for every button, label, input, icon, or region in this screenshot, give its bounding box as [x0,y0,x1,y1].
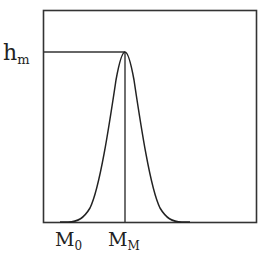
x-label-m0: M0 [55,228,82,253]
x-label-mm: MM [108,228,140,253]
peak-diagram: hm M0 MM [0,0,270,256]
plot-frame [44,11,257,223]
y-label-hm: hm [3,40,30,67]
